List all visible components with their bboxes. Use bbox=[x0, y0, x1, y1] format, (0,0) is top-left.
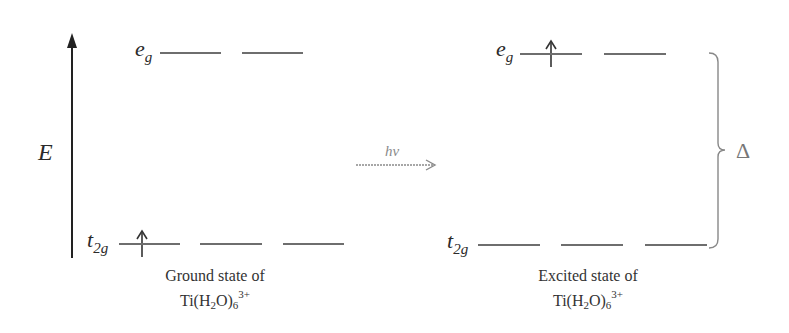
t2g-orbital-level bbox=[119, 243, 180, 245]
hv-transition-arrow bbox=[356, 160, 435, 170]
complex-formula: Ti(H2O)63+ bbox=[488, 289, 688, 311]
t2g-label: t2g bbox=[87, 229, 108, 256]
t2g-orbital-level bbox=[561, 244, 623, 246]
complex-formula: Ti(H2O)63+ bbox=[115, 289, 315, 311]
t2g-orbital-level bbox=[283, 243, 344, 245]
t2g-label: t2g bbox=[447, 230, 468, 257]
eg-orbital-level bbox=[160, 52, 221, 54]
eg-label: eg bbox=[496, 38, 513, 65]
t2g-orbital-level bbox=[478, 244, 540, 246]
eg-orbital-level bbox=[242, 52, 303, 54]
energy-axis-label: E bbox=[38, 140, 53, 164]
eg-label: eg bbox=[135, 38, 152, 65]
ground-state-caption: Ground state of Ti(H2O)63+ bbox=[115, 268, 315, 311]
t2g-orbital-level bbox=[200, 243, 262, 245]
hv-label: hv bbox=[385, 144, 399, 159]
eg-orbital-level bbox=[604, 53, 666, 55]
eg-orbital-level bbox=[520, 53, 582, 55]
t2g-orbital-level bbox=[645, 244, 707, 246]
delta-brace bbox=[709, 53, 725, 248]
excited-state-caption: Excited state of Ti(H2O)63+ bbox=[488, 268, 688, 311]
delta-label: Δ bbox=[736, 140, 750, 162]
energy-axis-arrow bbox=[67, 33, 77, 258]
